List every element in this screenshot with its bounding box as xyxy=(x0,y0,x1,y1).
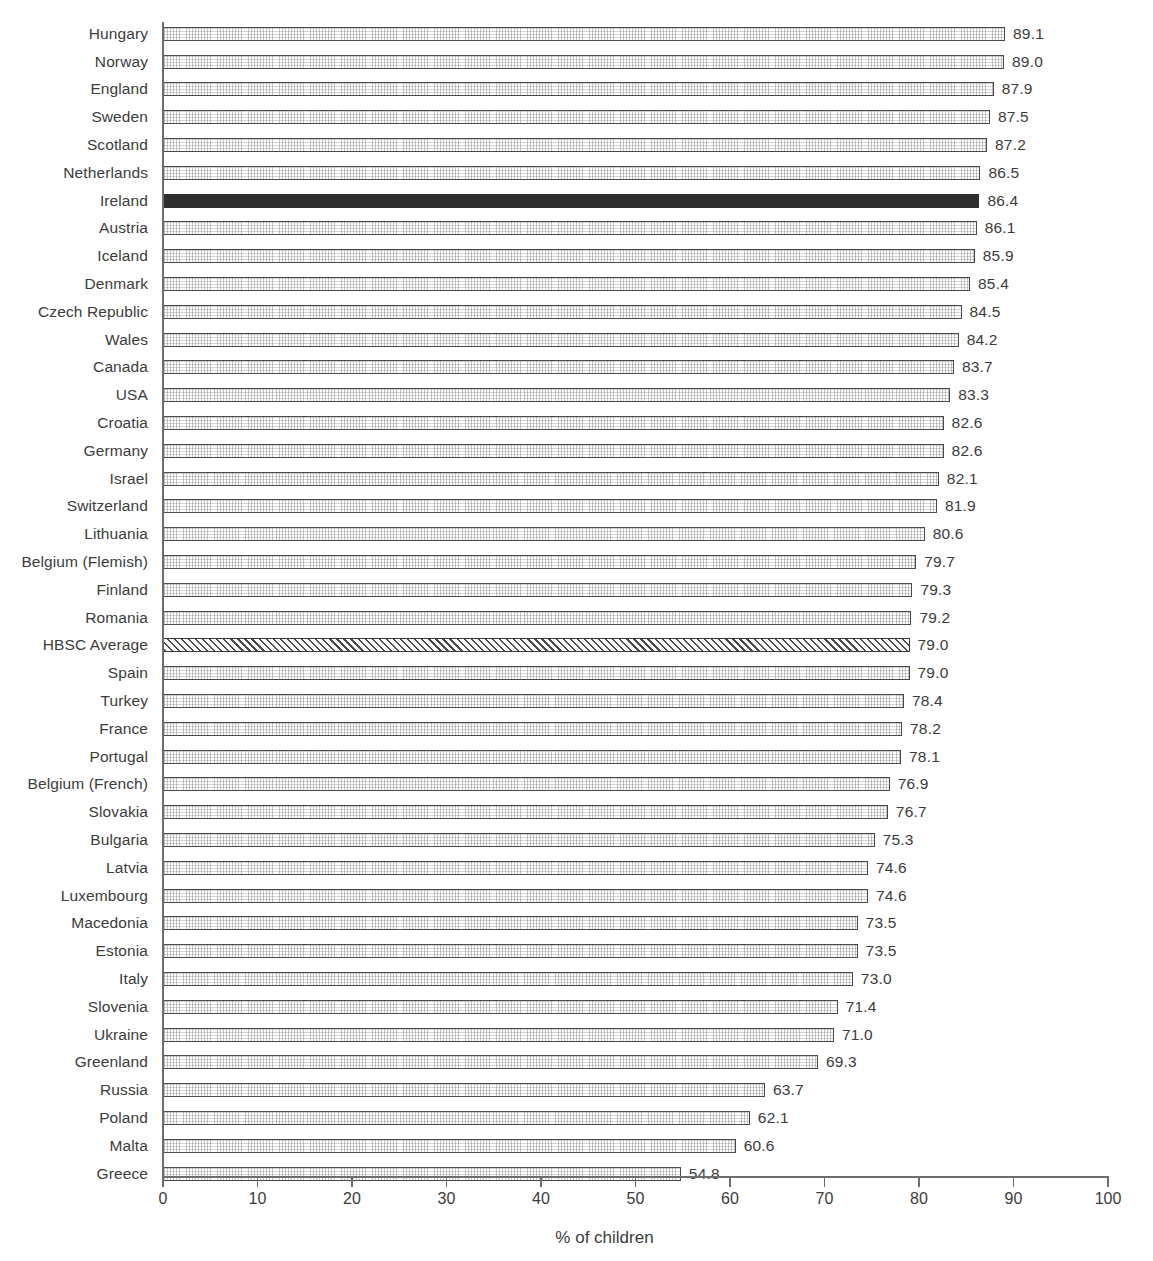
category-label-hbsc-average: HBSC Average xyxy=(43,636,148,654)
bar-value-label: 89.0 xyxy=(1012,53,1043,71)
bar-rows-container: Hungary89.1Norway89.0England87.9Sweden87… xyxy=(0,20,1153,1187)
bar-value-label: 81.9 xyxy=(945,497,976,515)
bar-row: Norway89.0 xyxy=(0,48,1153,76)
bar-row: Russia63.7 xyxy=(0,1076,1153,1104)
x-tick-mark xyxy=(540,1178,542,1187)
bar-estonia xyxy=(163,944,858,958)
bar-greece xyxy=(163,1167,681,1181)
category-label-belgium-flemish: Belgium (Flemish) xyxy=(21,553,148,571)
bar-value-label: 87.9 xyxy=(1002,80,1033,98)
bar-ireland xyxy=(163,194,979,208)
x-tick-label: 90 xyxy=(1005,1190,1023,1208)
bar-row: HBSC Average79.0 xyxy=(0,632,1153,660)
bar-value-label: 80.6 xyxy=(933,525,964,543)
category-label-germany: Germany xyxy=(84,442,148,460)
bar-switzerland xyxy=(163,499,937,513)
x-tick-label: 100 xyxy=(1095,1190,1122,1208)
bar-value-label: 78.2 xyxy=(910,720,941,738)
category-label-denmark: Denmark xyxy=(84,275,148,293)
bar-malta xyxy=(163,1139,736,1153)
category-label-latvia: Latvia xyxy=(106,859,148,877)
bar-row: Israel82.1 xyxy=(0,465,1153,493)
category-label-scotland: Scotland xyxy=(87,136,148,154)
x-tick-mark xyxy=(446,1178,448,1187)
bar-hungary xyxy=(163,27,1005,41)
bar-france xyxy=(163,722,902,736)
bar-value-label: 86.4 xyxy=(987,192,1018,210)
bar-value-label: 69.3 xyxy=(826,1053,857,1071)
bar-value-label: 85.4 xyxy=(978,275,1009,293)
bar-finland xyxy=(163,583,912,597)
bar-row: Greenland69.3 xyxy=(0,1048,1153,1076)
x-tick-label: 10 xyxy=(249,1190,267,1208)
category-label-romania: Romania xyxy=(85,609,148,627)
category-label-israel: Israel xyxy=(109,470,148,488)
bar-russia xyxy=(163,1083,765,1097)
bar-value-label: 82.6 xyxy=(952,442,983,460)
bar-value-label: 87.2 xyxy=(995,136,1026,154)
category-label-norway: Norway xyxy=(95,53,148,71)
category-label-canada: Canada xyxy=(93,358,148,376)
bar-row: Bulgaria75.3 xyxy=(0,826,1153,854)
bar-italy xyxy=(163,972,853,986)
bar-value-label: 71.0 xyxy=(842,1026,873,1044)
bar-row: Canada83.7 xyxy=(0,354,1153,382)
x-tick-label: 0 xyxy=(159,1190,168,1208)
bar-value-label: 87.5 xyxy=(998,108,1029,126)
bar-row: Ireland86.4 xyxy=(0,187,1153,215)
bar-latvia xyxy=(163,861,868,875)
bar-row: Belgium (Flemish)79.7 xyxy=(0,548,1153,576)
x-tick-mark xyxy=(351,1178,353,1187)
bar-value-label: 86.5 xyxy=(988,164,1019,182)
bar-row: Ukraine71.0 xyxy=(0,1021,1153,1049)
category-label-sweden: Sweden xyxy=(91,108,148,126)
bar-value-label: 79.0 xyxy=(918,664,949,682)
category-label-france: France xyxy=(99,720,148,738)
bar-ukraine xyxy=(163,1028,834,1042)
x-tick-mark xyxy=(1013,1178,1015,1187)
category-label-hungary: Hungary xyxy=(89,25,148,43)
bar-value-label: 85.9 xyxy=(983,247,1014,265)
category-label-russia: Russia xyxy=(100,1081,148,1099)
bar-value-label: 86.1 xyxy=(985,219,1016,237)
bar-row: Sweden87.5 xyxy=(0,103,1153,131)
category-label-ukraine: Ukraine xyxy=(94,1026,148,1044)
bar-row: Germany82.6 xyxy=(0,437,1153,465)
bar-croatia xyxy=(163,416,944,430)
category-label-greece: Greece xyxy=(97,1165,148,1183)
bar-romania xyxy=(163,611,911,625)
bar-value-label: 82.6 xyxy=(952,414,983,432)
bar-belgium-flemish xyxy=(163,555,916,569)
bar-usa xyxy=(163,388,950,402)
bar-row: England87.9 xyxy=(0,76,1153,104)
bar-portugal xyxy=(163,750,901,764)
category-label-croatia: Croatia xyxy=(97,414,148,432)
x-tick-mark xyxy=(918,1178,920,1187)
category-label-portugal: Portugal xyxy=(89,748,148,766)
category-label-macedonia: Macedonia xyxy=(71,914,148,932)
bar-row: Spain79.0 xyxy=(0,659,1153,687)
bar-value-label: 60.6 xyxy=(744,1137,775,1155)
bar-luxembourg xyxy=(163,889,868,903)
bar-poland xyxy=(163,1111,750,1125)
bar-canada xyxy=(163,360,954,374)
bar-row: Romania79.2 xyxy=(0,604,1153,632)
category-label-england: England xyxy=(90,80,148,98)
category-label-netherlands: Netherlands xyxy=(63,164,148,182)
bar-value-label: 73.5 xyxy=(866,914,897,932)
bar-row: Greece54.8 xyxy=(0,1160,1153,1188)
bar-sweden xyxy=(163,110,990,124)
category-label-lithuania: Lithuania xyxy=(84,525,148,543)
bar-row: Slovenia71.4 xyxy=(0,993,1153,1021)
bar-wales xyxy=(163,333,959,347)
bar-value-label: 76.7 xyxy=(896,803,927,821)
bar-row: Poland62.1 xyxy=(0,1104,1153,1132)
x-tick-mark xyxy=(824,1178,826,1187)
bar-value-label: 84.5 xyxy=(970,303,1001,321)
category-label-italy: Italy xyxy=(119,970,148,988)
bar-row: Austria86.1 xyxy=(0,215,1153,243)
category-label-slovakia: Slovakia xyxy=(89,803,148,821)
bar-macedonia xyxy=(163,916,858,930)
bar-chart: Hungary89.1Norway89.0England87.9Sweden87… xyxy=(0,0,1153,1261)
bar-denmark xyxy=(163,277,970,291)
